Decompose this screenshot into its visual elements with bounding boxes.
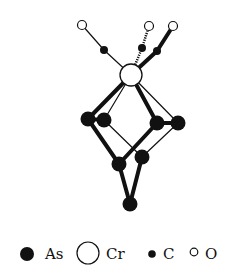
cluster-structure-diagram: As Cr C O — [0, 0, 251, 274]
atom-c3 — [153, 47, 161, 55]
atom-cr — [120, 64, 142, 86]
legend-o-label: O — [205, 245, 217, 263]
legend: As Cr C O — [20, 242, 217, 264]
atom-c1 — [100, 46, 108, 54]
atom-as2 — [97, 113, 112, 128]
atom-c2 — [138, 44, 146, 52]
atom-o3 — [169, 22, 178, 31]
legend-o-icon — [190, 248, 198, 256]
legend-cr-label: Cr — [106, 245, 125, 263]
atom-as7 — [123, 197, 138, 212]
atoms-layer — [78, 21, 186, 212]
atom-o1 — [78, 21, 87, 30]
atom-as1 — [81, 112, 96, 127]
atom-as6 — [135, 150, 150, 165]
legend-as-label: As — [44, 245, 64, 263]
atom-as5 — [112, 157, 127, 172]
atom-o2 — [145, 22, 154, 31]
atom-as3 — [150, 116, 165, 131]
legend-as-icon — [20, 247, 34, 261]
atom-as4 — [171, 116, 186, 131]
legend-cr-icon — [77, 242, 99, 264]
legend-c-label: C — [163, 245, 174, 263]
bonds-layer — [82, 25, 178, 204]
legend-c-icon — [148, 250, 156, 258]
